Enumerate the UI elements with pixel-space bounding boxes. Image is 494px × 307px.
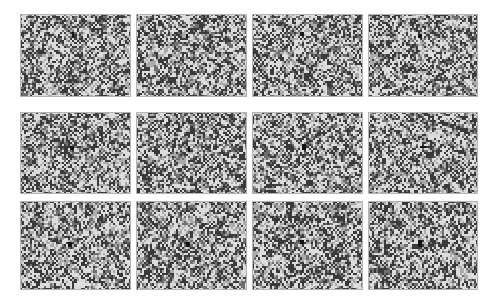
heatmap-canvas <box>136 14 247 97</box>
heatmap-canvas <box>252 14 363 97</box>
heatmap-canvas <box>368 14 478 97</box>
heatmap-panel <box>136 201 247 290</box>
heatmap-panel <box>20 14 131 97</box>
heatmap-panel <box>20 201 131 290</box>
heatmap-canvas <box>368 112 478 194</box>
figure-panel-grid <box>0 0 494 307</box>
heatmap-canvas <box>20 14 131 97</box>
heatmap-panel <box>368 14 478 97</box>
heatmap-panel <box>368 112 478 194</box>
heatmap-canvas <box>20 112 131 194</box>
heatmap-panel <box>20 112 131 194</box>
heatmap-canvas <box>20 201 131 290</box>
heatmap-canvas <box>368 201 478 290</box>
heatmap-panel <box>136 14 247 97</box>
heatmap-panel <box>252 14 363 97</box>
heatmap-canvas <box>136 112 247 194</box>
heatmap-panel <box>252 112 363 194</box>
heatmap-panel <box>368 201 478 290</box>
heatmap-panel <box>136 112 247 194</box>
heatmap-canvas <box>252 112 363 194</box>
heatmap-canvas <box>252 201 363 290</box>
heatmap-panel <box>252 201 363 290</box>
heatmap-canvas <box>136 201 247 290</box>
